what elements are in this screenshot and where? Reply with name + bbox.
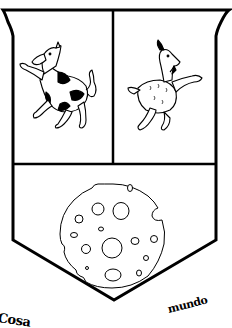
coat-of-arms: [0, 0, 232, 328]
